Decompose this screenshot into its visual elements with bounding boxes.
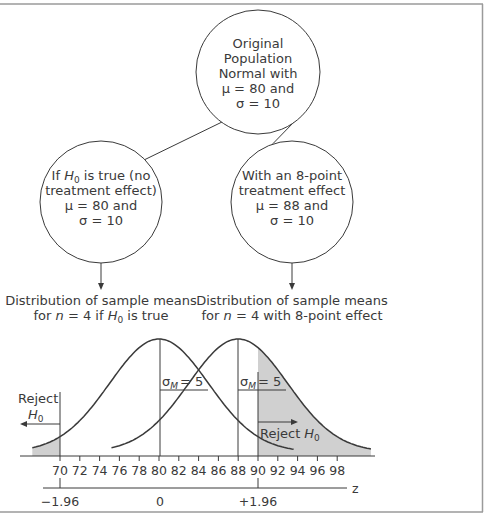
reject-right-label: RejectH0: [260, 426, 320, 443]
arrow-down-left: [98, 263, 104, 290]
x-tick-label: 90: [250, 463, 266, 478]
node-text: σ = 10: [236, 96, 280, 111]
reject-left-label: Reject: [18, 391, 58, 406]
x-tick-label: 76: [111, 463, 127, 478]
node-text: σ = 10: [79, 213, 123, 228]
h0-distribution-curve: [32, 339, 293, 449]
node-text: Normal with: [219, 66, 298, 81]
x-tick-label: 74: [92, 463, 108, 478]
z-tick-label: −1.96: [41, 494, 79, 509]
x-tick-label: 72: [72, 463, 88, 478]
figure: Original Population Normal with μ = 80 a…: [0, 0, 496, 530]
node-text: μ = 88 and: [256, 198, 329, 213]
x-tick-label: 86: [210, 463, 226, 478]
node-text: Original: [233, 36, 284, 51]
x-tick-label: 78: [131, 463, 147, 478]
x-tick-label: 70: [52, 463, 68, 478]
arrow-down-right: [289, 263, 295, 290]
sigma-label-h1: σM= 5: [240, 374, 281, 391]
x-axis-ticks: 707274767880828486889092949698: [52, 456, 345, 478]
node-h0-true: If H0 is true (no treatment effect) μ = …: [40, 141, 162, 263]
node-text: treatment effect: [239, 183, 346, 198]
node-text: μ = 80 and: [222, 81, 295, 96]
sigma-label-h0: σM= 5: [162, 374, 203, 391]
node-original-population: Original Population Normal with μ = 80 a…: [196, 10, 320, 134]
x-tick-label: 98: [329, 463, 345, 478]
node-text: μ = 80 and: [65, 198, 138, 213]
x-tick-label: 88: [230, 463, 246, 478]
x-tick-label: 94: [290, 463, 306, 478]
x-tick-label: 80: [151, 463, 167, 478]
z-tick-label: +1.96: [239, 494, 277, 509]
z-tick-label: 0: [156, 494, 164, 509]
node-text: σ = 10: [270, 213, 314, 228]
effect-distribution-curve: [112, 339, 371, 449]
caption-left-line2: for n = 4 if H0 is true: [33, 308, 168, 325]
x-tick-label: 92: [270, 463, 286, 478]
x-tick-label: 82: [171, 463, 187, 478]
z-axis-label: z: [352, 481, 359, 496]
caption-right-line2: for n = 4 with 8-point effect: [202, 308, 383, 323]
node-text: Population: [224, 51, 292, 66]
caption-left-line1: Distribution of sample means: [5, 293, 197, 308]
x-tick-label: 84: [191, 463, 207, 478]
reject-left-h0: H0: [28, 407, 44, 424]
node-text: With an 8-point: [242, 168, 342, 183]
distribution-chart: σM= 5 σM= 5 Reject H0 RejectH0 707274767…: [18, 339, 375, 509]
node-text: treatment effect): [45, 183, 157, 198]
caption-right-line1: Distribution of sample means: [196, 293, 388, 308]
node-treatment-effect: With an 8-point treatment effect μ = 88 …: [231, 141, 353, 263]
x-tick-label: 96: [309, 463, 325, 478]
connector-left: [144, 122, 222, 160]
